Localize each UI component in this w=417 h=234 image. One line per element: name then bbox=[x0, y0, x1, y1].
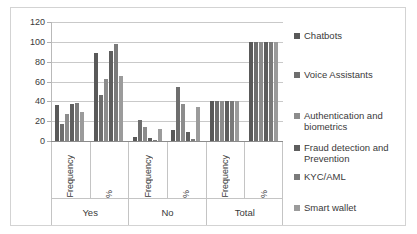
axis-subcategory-label: Frequency bbox=[66, 155, 75, 198]
bar bbox=[75, 103, 79, 141]
legend-swatch-icon bbox=[294, 72, 300, 78]
axis-subcategory-cell: Frequency bbox=[128, 142, 167, 198]
bar bbox=[259, 42, 263, 141]
axis-subcategory-label: % bbox=[105, 190, 114, 198]
axis-subcategory-label: % bbox=[182, 190, 191, 198]
axis-subcategory-label: Frequency bbox=[221, 155, 230, 198]
chart-container: 120100806040200 Frequency%Frequency%Freq… bbox=[10, 7, 406, 226]
bars-layer bbox=[51, 22, 283, 141]
axis-subcategory-label: Frequency bbox=[144, 155, 153, 198]
bar bbox=[191, 139, 195, 141]
bar bbox=[70, 104, 74, 141]
legend-item[interactable]: KYC/AML bbox=[294, 171, 405, 182]
bar bbox=[148, 138, 152, 141]
y-axis-tickmark bbox=[47, 141, 51, 142]
bar bbox=[176, 87, 180, 141]
bar bbox=[143, 127, 147, 141]
axis-category-label: No bbox=[161, 207, 173, 218]
bar bbox=[220, 101, 224, 141]
legend-label: Authentication and biometrics bbox=[304, 110, 405, 132]
bar bbox=[109, 51, 113, 141]
y-axis-tick-label: 120 bbox=[30, 18, 45, 27]
bar-group bbox=[167, 22, 206, 141]
legend-label: Voice Assistants bbox=[304, 69, 373, 80]
bar bbox=[196, 107, 200, 141]
legend-swatch-icon bbox=[294, 174, 300, 180]
legend-label: KYC/AML bbox=[304, 171, 346, 182]
bar bbox=[104, 79, 108, 141]
bar bbox=[138, 120, 142, 141]
bar-group bbox=[244, 22, 283, 141]
bar-group bbox=[51, 22, 90, 141]
y-axis-tick-label: 20 bbox=[35, 117, 45, 126]
axis-subcategory-cell: % bbox=[167, 142, 206, 198]
y-axis-tickmark bbox=[47, 42, 51, 43]
legend-label: Fraud detection and Prevention bbox=[304, 142, 405, 164]
y-axis: 120100806040200 bbox=[11, 8, 49, 138]
axis-subcategory-cell: Frequency bbox=[206, 142, 245, 198]
axis-subcategory-label: % bbox=[260, 190, 269, 198]
axis-category-cell: Total bbox=[206, 198, 283, 225]
bar bbox=[230, 101, 234, 141]
legend-item[interactable]: Smart wallet bbox=[294, 202, 405, 213]
axis-category-label: Total bbox=[235, 207, 255, 218]
y-axis-tickmark bbox=[47, 101, 51, 102]
axis-subcategory-cell: Frequency bbox=[51, 142, 90, 198]
bar-group bbox=[128, 22, 167, 141]
bar bbox=[80, 112, 84, 141]
y-axis-tick-label: 80 bbox=[35, 57, 45, 66]
legend-item[interactable]: Authentication and biometrics bbox=[294, 110, 405, 132]
bar bbox=[171, 130, 175, 141]
bar-group bbox=[206, 22, 245, 141]
legend-swatch-icon bbox=[294, 113, 300, 119]
axis-category-cell: No bbox=[128, 198, 205, 225]
bar bbox=[153, 140, 157, 141]
bar bbox=[158, 129, 162, 141]
bar bbox=[119, 76, 123, 141]
y-axis-tick-label: 60 bbox=[35, 77, 45, 86]
legend-item[interactable]: Chatbots bbox=[294, 30, 405, 41]
bar bbox=[55, 105, 59, 141]
bar-group bbox=[90, 22, 129, 141]
legend-swatch-icon bbox=[294, 205, 300, 211]
y-axis-tickmark bbox=[47, 82, 51, 83]
y-axis-tickmark bbox=[47, 121, 51, 122]
bar bbox=[186, 132, 190, 141]
chart-legend: ChatbotsVoice AssistantsAuthentication a… bbox=[294, 16, 405, 221]
bar bbox=[269, 42, 273, 141]
legend-label: Chatbots bbox=[304, 30, 342, 41]
category-axis: Frequency%Frequency%Frequency%YesNoTotal bbox=[51, 142, 283, 225]
bar bbox=[94, 53, 98, 141]
legend-swatch-icon bbox=[294, 145, 300, 151]
legend-swatch-icon bbox=[294, 33, 300, 39]
y-axis-tick-label: 0 bbox=[40, 137, 45, 146]
bar bbox=[254, 42, 258, 141]
bar bbox=[210, 101, 214, 141]
plot-area: 120100806040200 Frequency%Frequency%Freq… bbox=[11, 8, 293, 225]
y-axis-tick-label: 40 bbox=[35, 97, 45, 106]
bar bbox=[274, 42, 278, 141]
bar bbox=[225, 101, 229, 141]
bar bbox=[133, 137, 137, 141]
bar bbox=[235, 101, 239, 141]
axis-subcategory-cell: % bbox=[244, 142, 283, 198]
bar bbox=[99, 95, 103, 141]
legend-item[interactable]: Voice Assistants bbox=[294, 69, 405, 80]
bar bbox=[65, 114, 69, 141]
y-axis-tick-label: 100 bbox=[30, 37, 45, 46]
legend-label: Smart wallet bbox=[304, 202, 356, 213]
legend-item[interactable]: Fraud detection and Prevention bbox=[294, 142, 405, 164]
axis-category-label: Yes bbox=[82, 207, 98, 218]
bar bbox=[181, 104, 185, 141]
y-axis-tickmark bbox=[47, 22, 51, 23]
bar bbox=[215, 101, 219, 141]
axis-category-cell: Yes bbox=[51, 198, 128, 225]
bar bbox=[114, 44, 118, 141]
bar bbox=[249, 42, 253, 141]
bar bbox=[60, 124, 64, 141]
axis-subcategory-cell: % bbox=[90, 142, 129, 198]
bar bbox=[264, 42, 268, 141]
y-axis-tickmark bbox=[47, 62, 51, 63]
